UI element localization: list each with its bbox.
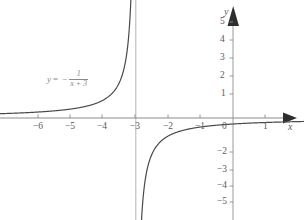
y-tick-label-3: 3 [220, 53, 225, 63]
y-axis-ticks [230, 22, 234, 202]
equation-equals-sign: = [53, 75, 58, 84]
x-tick-label--5: −5 [65, 122, 75, 132]
function-graph-figure: −6 −5 −4 −3 −2 −1 0 1 5 4 3 2 1 −2 −3 −4… [0, 0, 304, 220]
y-tick-label--2: −2 [217, 147, 227, 157]
x-tick-label--3: −3 [130, 122, 140, 132]
equation-denominator: x + 3 [69, 80, 88, 89]
x-tick-label--1: −1 [195, 122, 205, 132]
x-tick-label--6: −6 [33, 122, 43, 132]
y-tick-label-2: 2 [220, 71, 225, 81]
equation-lhs: y [47, 75, 51, 84]
y-tick-label--5: −5 [217, 197, 227, 207]
equation-numerator: 1 [75, 70, 83, 79]
y-tick-label--4: −4 [217, 181, 227, 191]
y-tick-label-5: 5 [220, 17, 225, 27]
y-tick-label-4: 4 [220, 35, 225, 45]
x-axis-label: x [288, 122, 292, 132]
equation-fraction: 1 x + 3 [69, 70, 88, 88]
y-axis-arrowhead [228, 6, 240, 26]
equation-annotation: y = − 1 x + 3 [47, 70, 88, 88]
function-curve-left-branch [0, 0, 132, 114]
y-tick-label--3: −3 [217, 165, 227, 175]
plot-canvas [0, 0, 304, 220]
x-tick-label--4: −4 [97, 122, 107, 132]
x-tick-label--2: −2 [163, 122, 173, 132]
x-tick-label-1: 1 [263, 122, 268, 132]
x-tick-label-0: 0 [222, 122, 227, 132]
equation-minus-sign: − [62, 75, 67, 84]
y-axis-label: y [224, 7, 228, 17]
y-tick-label-1: 1 [221, 89, 226, 99]
